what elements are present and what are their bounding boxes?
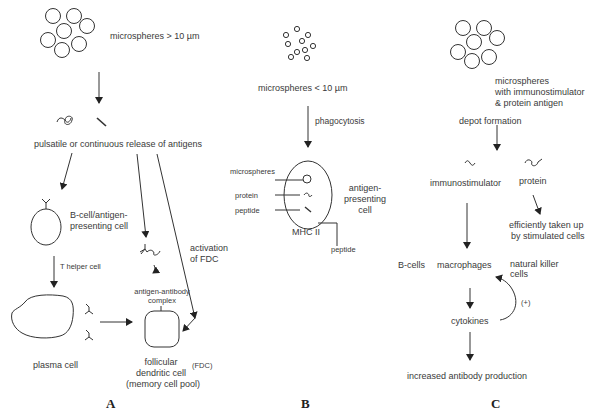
label-fdc-2: dendritic cell [124, 368, 198, 379]
label-ms-antigen-1: microspheres [495, 76, 549, 87]
label-large-microspheres: microspheres > 10 µm [110, 31, 199, 42]
label-fdc-abbrev: (FDC) [192, 361, 212, 370]
label-ms-antigen-3: & protein antigen [495, 98, 563, 109]
small-microspheres-icon [283, 26, 315, 60]
microspheres-with-antigen-icon [451, 21, 505, 69]
large-microspheres-icon [41, 9, 95, 58]
label-release: pulsatile or continuous release of antig… [34, 139, 202, 150]
panel-label-a: A [106, 396, 115, 412]
label-uptake-1: efficiently taken up [509, 220, 583, 231]
label-bcell-2: presenting cell [70, 221, 128, 232]
label-nk-2: cells [510, 269, 528, 280]
label-plasma-cell: plasma cell [33, 360, 78, 371]
plasma-cell-icon [12, 295, 74, 338]
label-inner-protein: protein [235, 191, 258, 200]
label-mhc: MHC II [292, 227, 320, 238]
label-bcells: B-cells [398, 260, 425, 271]
label-apc-1: antigen- [335, 183, 395, 194]
label-phagocytosis: phagocytosis [315, 117, 365, 126]
label-activation-2: of FDC [190, 254, 219, 265]
label-fdc-3: (memory cell pool) [118, 379, 208, 390]
label-immunostimulator: immunostimulator [430, 178, 501, 189]
label-macrophages: macrophages [437, 260, 492, 271]
label-apc-2: presenting [335, 194, 395, 205]
label-feedback: (+) [521, 298, 530, 307]
label-depot: depot formation [459, 116, 522, 127]
panel-label-c: C [491, 396, 500, 412]
label-t-helper: T helper cell [60, 262, 101, 271]
protein-icon [57, 116, 72, 124]
label-peptide-out: peptide [331, 245, 356, 254]
label-uptake-2: by stimulated cells [511, 231, 585, 242]
label-complex-1: antigen-antibody [124, 287, 200, 296]
label-fdc-1: follicular [124, 357, 198, 368]
label-inner-microspheres: microspheres [230, 167, 275, 176]
label-small-microspheres: microspheres < 10 µm [258, 83, 347, 94]
label-ms-antigen-2: with immunostimulator [495, 87, 585, 98]
label-complex-2: complex [124, 296, 200, 305]
fdc-icon [145, 311, 179, 347]
label-apc-3: cell [335, 205, 395, 216]
label-activation-1: activation [190, 243, 228, 254]
label-production: increased antibody production [407, 371, 527, 382]
b-cell-icon [31, 209, 61, 245]
label-bcell-1: B-cell/antigen- [70, 210, 128, 221]
panel-label-b: B [301, 396, 310, 412]
label-cytokines: cytokines [451, 316, 489, 327]
label-inner-peptide: peptide [235, 206, 260, 215]
diagram-canvas [0, 0, 599, 416]
label-protein: protein [519, 176, 547, 187]
